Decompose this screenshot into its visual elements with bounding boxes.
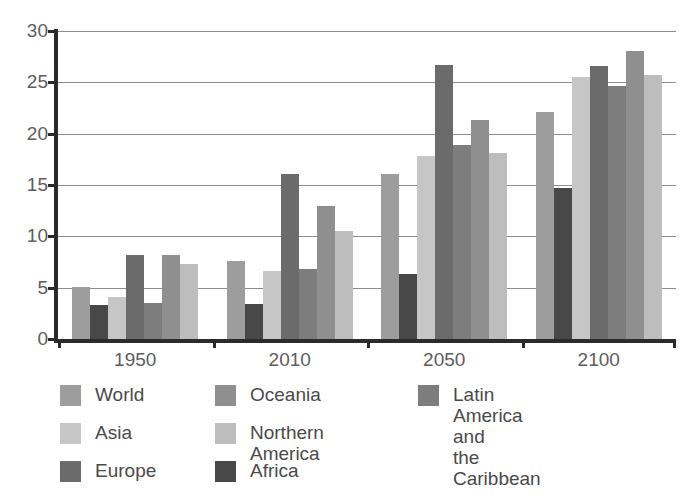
bar <box>435 65 453 339</box>
chart-legend: WorldAsiaEuropeOceaniaNorthern AmericaAf… <box>0 384 688 504</box>
bar-group <box>58 31 213 339</box>
bar <box>536 112 554 339</box>
y-tick-label: 25 <box>10 72 48 91</box>
y-tick-label: 15 <box>10 175 48 194</box>
bar <box>90 305 108 339</box>
bar <box>590 66 608 339</box>
x-tickmark <box>213 339 216 348</box>
y-axis-tick-labels: 051015202530 <box>6 0 48 380</box>
legend-item[interactable]: Northern America <box>215 422 324 464</box>
y-tick-label: 5 <box>10 278 48 297</box>
bar <box>299 269 317 339</box>
legend-swatch-icon <box>418 385 439 406</box>
legend-item[interactable]: World <box>60 384 144 406</box>
bar <box>399 274 417 339</box>
legend-swatch-icon <box>215 385 236 406</box>
bars-layer <box>58 31 676 339</box>
x-axis-line <box>54 339 676 343</box>
legend-item-label: Asia <box>95 422 132 443</box>
bar <box>227 261 245 339</box>
bar <box>489 153 507 339</box>
legend-swatch-icon <box>60 461 81 482</box>
bar <box>453 145 471 339</box>
bar <box>263 271 281 339</box>
legend-swatch-icon <box>215 423 236 444</box>
x-tickmark <box>58 339 61 348</box>
legend-item-label: Northern America <box>250 422 324 464</box>
bar-group <box>213 31 368 339</box>
x-tickmark <box>673 339 676 348</box>
bar <box>471 120 489 339</box>
bar <box>108 297 126 339</box>
x-tickmark <box>522 339 525 348</box>
bar <box>162 255 180 339</box>
bar <box>72 287 90 339</box>
x-tick-label: 2010 <box>213 350 368 369</box>
bar <box>245 304 263 339</box>
y-tick-label: 10 <box>10 226 48 245</box>
bar <box>335 231 353 339</box>
bar <box>644 75 662 339</box>
legend-item-label: Africa <box>250 460 299 481</box>
x-tick-label: 1950 <box>58 350 213 369</box>
bar <box>626 51 644 339</box>
bar <box>180 264 198 339</box>
y-tick-label: 20 <box>10 124 48 143</box>
legend-swatch-icon <box>60 385 81 406</box>
legend-item-label: Europe <box>95 460 156 481</box>
x-tick-label: 2100 <box>522 350 677 369</box>
bar <box>608 86 626 339</box>
bar <box>281 174 299 339</box>
y-tick-label: 30 <box>10 21 48 40</box>
bar <box>126 255 144 339</box>
legend-item-label: World <box>95 384 144 405</box>
legend-swatch-icon <box>215 461 236 482</box>
bar <box>317 206 335 339</box>
legend-item[interactable]: Europe <box>60 460 156 482</box>
legend-item[interactable]: Latin America and the Caribbean <box>418 384 541 489</box>
x-tick-label: 2050 <box>367 350 522 369</box>
bar-group <box>522 31 677 339</box>
y-tick-label: 0 <box>10 329 48 348</box>
legend-swatch-icon <box>60 423 81 444</box>
bar <box>417 156 435 339</box>
legend-item[interactable]: Asia <box>60 422 132 444</box>
bar <box>381 174 399 339</box>
legend-item-label: Oceania <box>250 384 321 405</box>
bar <box>554 188 572 339</box>
bar <box>572 77 590 339</box>
legend-item[interactable]: Oceania <box>215 384 321 406</box>
x-tickmark <box>367 339 370 348</box>
bar <box>144 303 162 339</box>
legend-item[interactable]: Africa <box>215 460 299 482</box>
population-bar-chart: 051015202530 1950201020502100 WorldAsiaE… <box>0 0 688 504</box>
legend-item-label: Latin America and the Caribbean <box>453 384 541 489</box>
bar-group <box>367 31 522 339</box>
plot-area: 051015202530 1950201020502100 <box>0 0 688 380</box>
